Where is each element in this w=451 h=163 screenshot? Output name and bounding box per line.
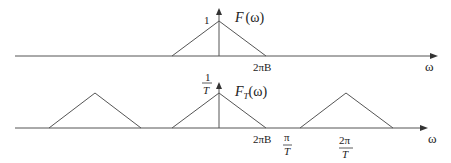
bottom-plot: 1 T FT(ω) 2πB π T 2π T ω <box>15 71 437 160</box>
svg-text:2π: 2π <box>339 134 351 146</box>
bottom-title: FT(ω) <box>234 84 267 101</box>
svg-text:T: T <box>342 148 349 160</box>
bottom-2pi-over-T-label: 2π T <box>339 134 353 160</box>
bottom-left-replica <box>49 93 141 128</box>
top-plot: 1 F(ω) 2πB ω <box>15 8 438 74</box>
svg-text:π: π <box>284 131 290 143</box>
bottom-2piB-label: 2πB <box>253 133 271 145</box>
svg-text:T: T <box>203 84 210 96</box>
top-peak-label: 1 <box>204 14 210 26</box>
svg-text:1: 1 <box>205 71 211 83</box>
bottom-right-replica <box>300 93 393 128</box>
bottom-omega-label: ω <box>428 131 437 146</box>
svg-text:T: T <box>284 145 291 157</box>
spectrum-diagram: 1 F(ω) 2πB ω 1 T FT(ω) 2πB π T 2π <box>0 0 451 163</box>
top-vertical-arrowhead-icon <box>216 8 222 15</box>
top-title: F(ω) <box>234 10 264 26</box>
top-2piB-label: 2πB <box>253 61 271 73</box>
bottom-vertical-arrowhead-icon <box>216 82 222 89</box>
bottom-axis-arrowhead-icon <box>420 125 428 131</box>
bottom-peak-label: 1 T <box>202 71 212 96</box>
top-omega-label: ω <box>425 59 434 74</box>
bottom-pi-over-T-label: π T <box>283 131 292 157</box>
